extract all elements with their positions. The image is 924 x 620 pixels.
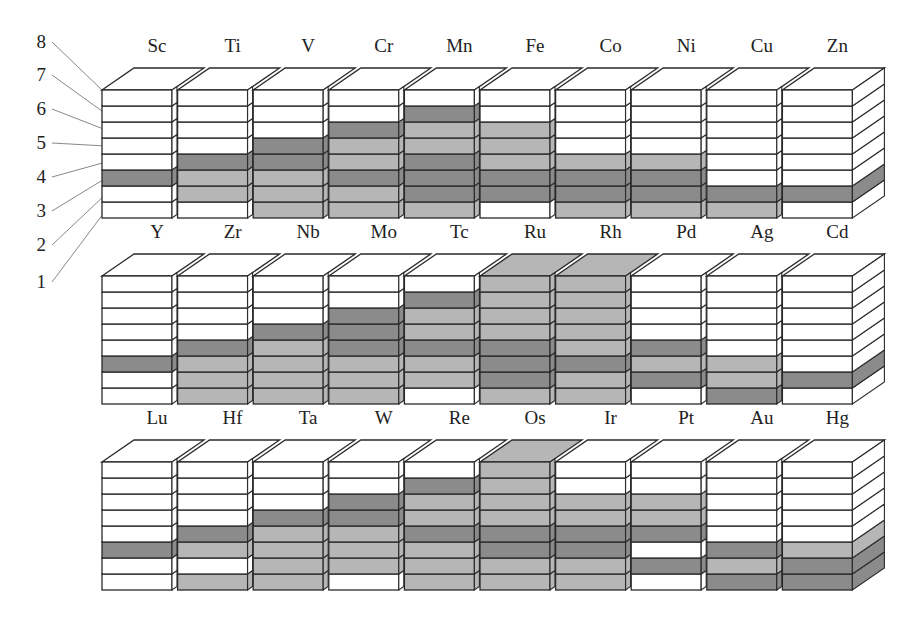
level-6-cell	[480, 122, 550, 138]
level-2-cell	[782, 558, 852, 574]
level-1-cell	[556, 388, 626, 404]
level-3-cell	[707, 170, 777, 186]
level-3-cell	[329, 356, 399, 372]
level-5-cell	[556, 138, 626, 154]
level-5-cell	[707, 138, 777, 154]
element-symbol: Fe	[526, 35, 545, 56]
level-4-cell	[480, 340, 550, 356]
level-3-cell	[480, 170, 550, 186]
level-3-cell	[631, 170, 701, 186]
level-5-cell	[404, 324, 474, 340]
level-6-cell	[707, 122, 777, 138]
element-row: ScTiVCrMnFeCoNiCuZn	[102, 35, 884, 218]
level-4-cell	[631, 154, 701, 170]
element-symbol: Rh	[600, 221, 623, 242]
level-8-side	[777, 273, 782, 292]
level-8-side	[550, 87, 555, 106]
level-2-cell	[707, 558, 777, 574]
level-8-side	[626, 87, 631, 106]
level-5-cell	[556, 324, 626, 340]
level-3-cell	[631, 356, 701, 372]
leader-line	[52, 178, 106, 211]
level-2-cell	[253, 186, 323, 202]
level-7-cell	[404, 292, 474, 308]
level-3-cell	[178, 542, 248, 558]
level-8-cell	[102, 276, 172, 292]
level-1-cell	[480, 388, 550, 404]
level-3-cell	[707, 542, 777, 558]
level-8-side	[626, 459, 631, 478]
level-2-cell	[404, 372, 474, 388]
level-8-side	[172, 273, 177, 292]
level-8-cell	[707, 462, 777, 478]
level-5-cell	[707, 324, 777, 340]
level-1-cell	[102, 202, 172, 218]
level-1-cell	[480, 202, 550, 218]
level-7-cell	[253, 106, 323, 122]
level-5-cell	[404, 510, 474, 526]
level-4-cell	[556, 154, 626, 170]
level-8-cell	[404, 90, 474, 106]
element-symbol: Hg	[826, 407, 850, 428]
level-2-cell	[404, 558, 474, 574]
level-3-cell	[253, 542, 323, 558]
level-6-cell	[631, 308, 701, 324]
level-7-cell	[707, 106, 777, 122]
level-8-cell	[480, 90, 550, 106]
level-8-side	[474, 459, 479, 478]
level-2-cell	[253, 372, 323, 388]
level-8-side	[248, 459, 253, 478]
level-4-cell	[253, 526, 323, 542]
level-3-cell	[556, 170, 626, 186]
level-5-cell	[253, 324, 323, 340]
level-4-cell	[178, 526, 248, 542]
level-7-cell	[102, 478, 172, 494]
level-8-side	[777, 459, 782, 478]
element-symbol: Y	[150, 221, 164, 242]
level-4-cell	[631, 340, 701, 356]
element-symbol: Cd	[826, 221, 849, 242]
level-7-cell	[782, 106, 852, 122]
level-1-cell	[556, 202, 626, 218]
level-6-cell	[178, 308, 248, 324]
level-8-side	[701, 273, 706, 292]
element-symbol: Mn	[446, 35, 473, 56]
level-4-cell	[480, 526, 550, 542]
level-6-cell	[782, 122, 852, 138]
level-7-cell	[480, 106, 550, 122]
level-number-legend: 87654321	[37, 31, 107, 292]
level-legend-item: 7	[37, 64, 107, 114]
element-symbol: Zr	[224, 221, 243, 242]
level-8-cell	[178, 462, 248, 478]
level-7-cell	[631, 106, 701, 122]
element-symbol: Cr	[374, 35, 394, 56]
level-3-cell	[782, 356, 852, 372]
level-2-cell	[102, 558, 172, 574]
element-symbol: Lu	[146, 407, 168, 428]
level-8-side	[248, 87, 253, 106]
level-5-cell	[178, 138, 248, 154]
level-6-cell	[480, 308, 550, 324]
level-7-cell	[329, 478, 399, 494]
element-block-hg: Hg	[782, 407, 884, 590]
level-number: 6	[37, 98, 47, 119]
level-8-cell	[253, 462, 323, 478]
level-6-cell	[707, 494, 777, 510]
level-8-cell	[329, 276, 399, 292]
level-5-cell	[631, 324, 701, 340]
level-3-cell	[253, 170, 323, 186]
level-7-cell	[480, 292, 550, 308]
level-8-side	[399, 87, 404, 106]
level-7-cell	[253, 292, 323, 308]
level-4-cell	[329, 154, 399, 170]
level-8-side	[701, 87, 706, 106]
level-6-cell	[556, 494, 626, 510]
level-number: 8	[37, 31, 47, 52]
level-1-cell	[782, 574, 852, 590]
level-6-cell	[329, 308, 399, 324]
level-8-side	[399, 459, 404, 478]
level-3-cell	[102, 170, 172, 186]
level-2-cell	[178, 558, 248, 574]
level-1-cell	[707, 202, 777, 218]
level-6-cell	[480, 494, 550, 510]
